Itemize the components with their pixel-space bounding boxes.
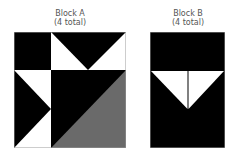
block-a-count: (4 total) [30,18,110,27]
block-b-diagram [150,32,225,148]
block-a-diagram [14,32,126,148]
block-b-label: Block B (4 total) [148,9,228,27]
block-a-title: Block A [30,9,110,18]
block-b-title: Block B [148,9,228,18]
block-b-count: (4 total) [148,18,228,27]
block-a-label: Block A (4 total) [30,9,110,27]
